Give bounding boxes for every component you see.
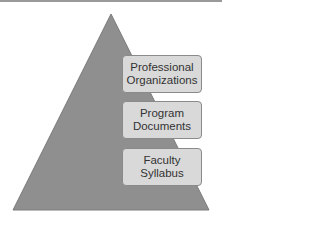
level-box-professional-organizations: Professional Organizations xyxy=(122,55,202,93)
level-label-line1: Program xyxy=(123,107,201,120)
level-label-line1: Faculty xyxy=(123,154,201,167)
level-box-program-documents: Program Documents xyxy=(122,101,202,139)
level-label-line1: Professional xyxy=(123,61,201,74)
level-label-line2: Documents xyxy=(123,120,201,133)
level-label-line2: Syllabus xyxy=(123,167,201,180)
level-label-line2: Organizations xyxy=(123,74,201,87)
level-box-faculty-syllabus: Faculty Syllabus xyxy=(122,148,202,186)
